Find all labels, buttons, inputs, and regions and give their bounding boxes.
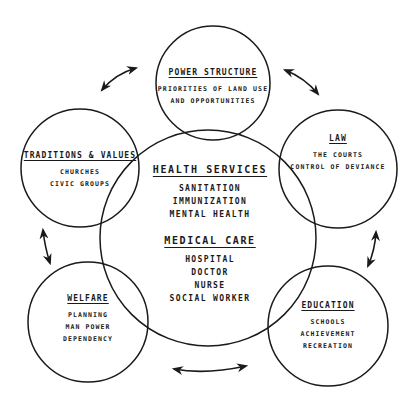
arrow-welfare-traditions [43,230,50,263]
power-structure-title: POWER STRUCTURE [158,68,268,77]
law-label: LAW THE COURTS CONTROL OF DEVIANCE [290,134,385,173]
health-services-item: SANITATION [153,182,267,195]
traditions-values-title: TRADITIONS & VALUES [24,151,136,160]
education-item: SCHOOLS [300,316,355,328]
arrow-power-law [285,70,318,94]
law-title: LAW [290,134,385,143]
welfare-item: DEPENDENCY [63,333,113,345]
education-title: EDUCATION [300,301,355,310]
medical-care-item: HOSPITAL [153,253,267,266]
health-services-item: MENTAL HEALTH [153,208,267,221]
health-services-item: IMMUNIZATION [153,195,267,208]
education-label: EDUCATION SCHOOLS ACHIEVEMENT RECREATION [300,301,355,352]
law-item: CONTROL OF DEVIANCE [290,161,385,173]
medical-care-item: NURSE [153,279,267,292]
traditions-values-item: CIVIC GROUPS [24,178,136,190]
spacer [153,221,267,235]
welfare-item: MAN POWER [63,321,113,333]
education-item: ACHIEVEMENT [300,328,355,340]
power-structure-item: AND OPPORTUNITIES [158,95,268,107]
medical-care-title: MEDICAL CARE [153,235,267,246]
welfare-label: WELFARE PLANNING MAN POWER DEPENDENCY [63,294,113,345]
center-label: HEALTH SERVICES SANITATION IMMUNIZATION … [153,164,267,305]
arrow-law-education [368,232,376,266]
power-structure-label: POWER STRUCTURE PRIORITIES OF LAND USE A… [158,68,268,107]
law-item: THE COURTS [290,149,385,161]
welfare-item: PLANNING [63,309,113,321]
arrow-education-welfare [174,366,246,371]
health-services-title: HEALTH SERVICES [153,164,267,175]
welfare-title: WELFARE [63,294,113,303]
education-item: RECREATION [300,340,355,352]
medical-care-item: DOCTOR [153,266,267,279]
medical-care-item: SOCIAL WORKER [153,292,267,305]
power-structure-item: PRIORITIES OF LAND USE [158,83,268,95]
arrow-traditions-power [102,68,136,90]
traditions-values-item: CHURCHES [24,166,136,178]
traditions-values-label: TRADITIONS & VALUES CHURCHES CIVIC GROUP… [24,151,136,190]
